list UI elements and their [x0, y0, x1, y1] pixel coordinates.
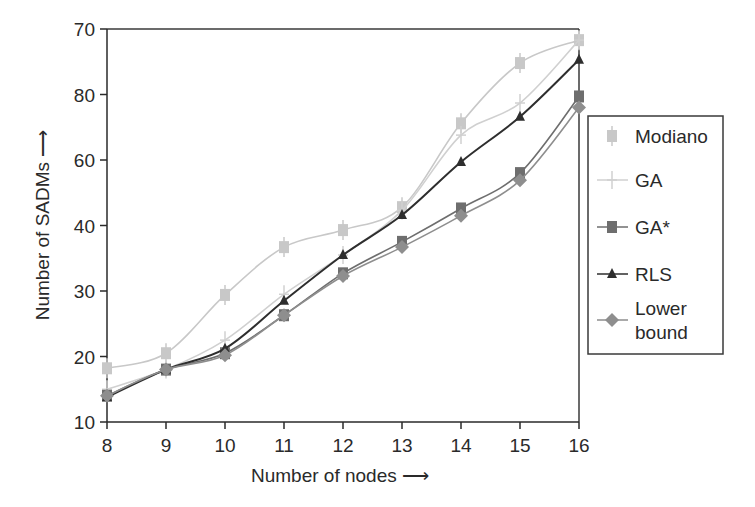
legend-label: GA [635, 170, 663, 191]
x-tick-label: 8 [102, 435, 113, 456]
y-axis-title: Number of SADMs ⟶ [32, 130, 53, 321]
legend: ModianoGAGA*RLSLowerbound [588, 116, 723, 354]
x-axis-ticks: 8910111213141516 [102, 422, 590, 456]
legend-label: Lower [635, 298, 687, 319]
y-tick-label: 30 [74, 281, 95, 302]
series-ga [102, 31, 584, 398]
x-tick-label: 9 [161, 435, 172, 456]
legend-label: bound [635, 322, 688, 343]
y-tick-label: 80 [74, 85, 95, 106]
series-lines [100, 30, 586, 403]
x-tick-label: 12 [332, 435, 353, 456]
y-tick-label: 70 [74, 19, 95, 40]
y-tick-label: 60 [74, 150, 95, 171]
legend-label: RLS [635, 264, 672, 285]
legend-label: GA* [635, 217, 670, 238]
x-tick-label: 14 [450, 435, 472, 456]
x-axis-title: Number of nodes ⟶ [251, 465, 429, 486]
series-modiano [102, 30, 584, 378]
x-tick-label: 13 [391, 435, 412, 456]
y-tick-label: 40 [74, 216, 95, 237]
y-tick-label: 20 [74, 347, 95, 368]
x-tick-label: 16 [568, 435, 589, 456]
legend-label: Modiano [635, 126, 708, 147]
x-tick-label: 15 [509, 435, 530, 456]
y-tick-label: 10 [74, 412, 95, 433]
x-tick-label: 10 [214, 435, 235, 456]
x-tick-label: 11 [274, 435, 294, 456]
line-chart: 10203040608070 8910111213141516 Number o… [0, 0, 755, 507]
